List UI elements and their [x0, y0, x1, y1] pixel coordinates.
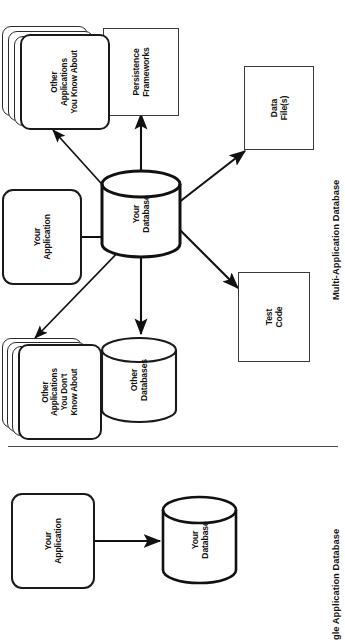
node-persistence-frameworks-label: Persistence Frameworks: [131, 47, 151, 97]
node-your-application-label: Your Application: [32, 214, 52, 260]
node-your-application-single-label: Your Application: [43, 518, 63, 564]
node-data-files[interactable]: Data File(s): [244, 66, 314, 150]
caption-single-application-database: gle Application Database: [330, 529, 341, 640]
node-data-files-label: Data File(s): [269, 96, 289, 121]
node-persistence-frameworks[interactable]: Persistence Frameworks: [103, 28, 179, 116]
node-your-application-single[interactable]: Your Application: [11, 493, 95, 589]
cylinder-shape: [98, 168, 184, 260]
node-other-databases[interactable]: Other Databases: [98, 336, 180, 424]
cylinder-shape: [160, 495, 240, 585]
node-other-apps-unknown-label: Other Applications You Don't Know About: [41, 368, 80, 416]
node-other-apps-known-label: Other Applications You Know About: [50, 50, 79, 114]
figure-multi-application-database: Other Databases Your Database Persistenc…: [0, 0, 345, 446]
node-other-apps-known[interactable]: Other Applications You Know About: [2, 18, 106, 130]
node-other-apps-unknown[interactable]: Other Applications You Don't Know About: [2, 328, 100, 440]
stack-front-card: Other Applications You Don't Know About: [18, 344, 102, 440]
cylinder-shape: [98, 336, 180, 424]
node-your-application[interactable]: Your Application: [2, 189, 82, 285]
figure-single-application-database: Your Application Your Database: [0, 446, 345, 637]
node-test-code[interactable]: Test Code: [238, 272, 310, 362]
edge-your-database-data-files: [178, 151, 245, 203]
node-test-code-label: Test Code: [264, 306, 284, 327]
stack-front-card: Other Applications You Know About: [20, 34, 110, 130]
node-your-database-single[interactable]: Your Database: [160, 495, 240, 585]
caption-multi-application-database: Multi-Application Database: [330, 180, 341, 300]
node-your-database[interactable]: Your Database: [98, 168, 184, 260]
